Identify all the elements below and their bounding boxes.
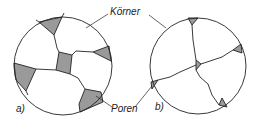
panel-a	[14, 13, 112, 115]
leader-grains-a	[86, 14, 108, 28]
leader-grains-b	[149, 15, 166, 28]
label-panel-a: a)	[16, 103, 25, 114]
panel-b	[150, 18, 246, 114]
label-pores: Poren	[111, 103, 138, 114]
label-panel-b: b)	[155, 101, 164, 112]
label-grains: Körner	[110, 6, 140, 17]
